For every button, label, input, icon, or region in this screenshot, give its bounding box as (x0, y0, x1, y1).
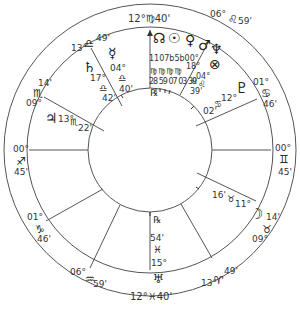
uranus-min: 54' (150, 234, 164, 243)
pluto-min: 02' (203, 107, 217, 116)
neptune-deg: 18° (186, 63, 200, 71)
cusp-3-min: 49' (224, 267, 238, 276)
venus-icon: ♀ (185, 33, 195, 47)
cusp-12-min: 46' (263, 100, 277, 109)
cusp-12-sign: ♋ (261, 88, 271, 99)
uranus-sign: ♓ (153, 245, 162, 255)
neptune-icon: ♆ (210, 42, 223, 56)
mercury-deg: 04° (110, 64, 126, 73)
cusp-8-deg: 09° (26, 99, 42, 108)
pluto-deg: 12° (221, 94, 237, 103)
cusp-ic-label: 12°♓40' (130, 292, 172, 302)
jupiter-sign: ♏ (70, 118, 78, 127)
saturn-min: 42' (102, 94, 116, 103)
neptune-min: 39' (190, 88, 202, 96)
sun-icon: ☉ (168, 31, 181, 45)
cusp-5-deg: 06° (70, 268, 86, 277)
moon-sign: ♉ (227, 195, 235, 204)
uranus-icon: ♅ (153, 273, 164, 285)
jupiter-icon: ♃ (45, 111, 58, 125)
mercury-sign: ♎ (118, 74, 126, 83)
uranus-deg: 15° (151, 259, 167, 268)
mercury-min: 40' (119, 85, 133, 94)
chart-wheel (0, 0, 300, 311)
cusp-11-deg: 06° (210, 10, 226, 19)
cusp-dsc-sign: ♐ (16, 156, 26, 167)
cusp-2-min: 14' (266, 213, 280, 222)
uranus-retro-icon: ℞ (153, 216, 161, 225)
cusp-6-min: 46' (37, 235, 51, 244)
cusp-dsc-min: 45' (14, 168, 28, 177)
moon-min: 16' (212, 191, 226, 200)
jupiter-min: 22' (78, 124, 92, 133)
cluster-signs: ♍♍♍♍ (150, 68, 183, 76)
cusp-12-deg: 01° (253, 78, 269, 87)
cusp-asc-sign: ♊ (279, 154, 289, 165)
moon-icon: ☽ (250, 207, 263, 222)
cusp-11-min: 59' (238, 17, 252, 26)
saturn-icon: ♄ (83, 60, 96, 74)
cusp-9-min: 49' (96, 34, 110, 43)
cusp-5-min: 59' (93, 280, 107, 289)
retrograde-icon: ℞ (150, 89, 158, 98)
moon-deg: 11° (235, 200, 251, 209)
cusp-11-sign: ♌ (228, 14, 238, 25)
cusp-asc-min: 45' (278, 168, 292, 177)
saturn-sign: ♎ (99, 84, 107, 93)
cusp-3-sign: ♈ (214, 275, 224, 286)
north-node-icon: ☊ (153, 31, 165, 45)
mercury-icon: ☿ (108, 46, 117, 60)
cusp-2-deg: 09° (252, 235, 268, 244)
cusp-asc-deg: 00° (275, 144, 291, 153)
mars-icon: ♂ (198, 38, 211, 52)
cusp-6-deg: 01° (27, 213, 43, 222)
saturn-deg: 17° (90, 74, 106, 83)
cusp-9-sign: ♎ (84, 38, 94, 49)
leo-sign: ♌ (190, 77, 198, 86)
cusp-dsc-deg: 00° (13, 145, 29, 154)
part-of-fortune-icon: ⊗ (209, 57, 221, 71)
cusp-mc-label: 12°♍40' (128, 14, 170, 24)
pluto-icon: ♇ (235, 81, 248, 96)
